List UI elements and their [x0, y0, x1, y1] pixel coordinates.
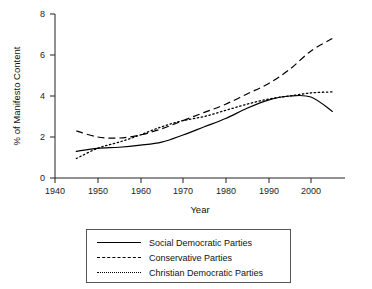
legend-label-conservative: Conservative Parties — [149, 253, 232, 263]
series-line-christian-democratic — [76, 92, 332, 159]
legend-label-christian-democratic: Christian Democratic Parties — [149, 268, 263, 278]
x-tick-label-1960: 1960 — [131, 186, 151, 196]
chart-legend: Social Democratic Parties Conservative P… — [86, 229, 291, 283]
chart-container: 0 2 4 6 8 1940 1950 1960 1970 1980 — [0, 0, 372, 289]
x-tick-label-2000: 2000 — [301, 186, 321, 196]
x-tick-label-1990: 1990 — [259, 186, 279, 196]
legend-item-social-democratic: Social Democratic Parties — [97, 235, 290, 250]
x-axis-ticks: 1940 1950 1960 1970 1980 1990 2000 — [45, 178, 321, 196]
x-tick-label-1970: 1970 — [173, 186, 193, 196]
legend-key-solid-line-icon — [97, 237, 141, 249]
y-tick-label-4: 4 — [40, 91, 45, 101]
chart-svg: 0 2 4 6 8 1940 1950 1960 1970 1980 — [0, 0, 372, 225]
x-tick-label-1950: 1950 — [88, 186, 108, 196]
y-tick-label-2: 2 — [40, 132, 45, 142]
y-tick-label-6: 6 — [40, 50, 45, 60]
x-tick-label-1940: 1940 — [45, 186, 65, 196]
legend-key-dashed-line-icon — [97, 252, 141, 264]
y-axis-ticks: 0 2 4 6 8 — [40, 9, 55, 183]
y-tick-label-0: 0 — [40, 173, 45, 183]
series-group — [76, 39, 332, 159]
y-axis-title: % of Manifesto Content — [11, 46, 22, 145]
legend-item-conservative: Conservative Parties — [97, 250, 290, 265]
legend-label-social-democratic: Social Democratic Parties — [149, 238, 252, 248]
x-axis-title: Year — [190, 204, 209, 215]
y-tick-label-8: 8 — [40, 9, 45, 19]
x-tick-label-1980: 1980 — [216, 186, 236, 196]
legend-key-dotted-line-icon — [97, 267, 141, 279]
plot-area: 0 2 4 6 8 1940 1950 1960 1970 1980 — [0, 0, 372, 225]
series-line-conservative — [76, 39, 332, 139]
legend-item-christian-democratic: Christian Democratic Parties — [97, 265, 290, 280]
